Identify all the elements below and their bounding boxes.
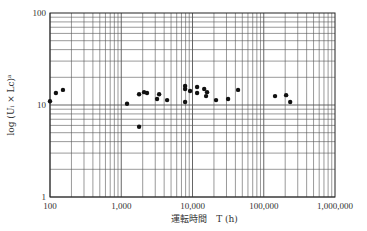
data-point — [195, 85, 199, 89]
data-point — [204, 94, 208, 98]
y-tick-label: 1 — [42, 192, 47, 202]
data-point — [157, 92, 161, 96]
data-point — [137, 125, 141, 129]
data-point — [183, 87, 187, 91]
data-point — [288, 100, 292, 104]
x-tick-label: 100,000 — [249, 201, 279, 211]
data-point — [188, 89, 192, 93]
data-point — [125, 102, 129, 106]
data-point — [155, 97, 159, 101]
grid-lines — [50, 13, 335, 197]
scatter-chart: 1001,00010,000100,0001,000,000 110100 運転… — [0, 0, 367, 231]
data-point — [284, 93, 288, 97]
y-axis-label: log (Uᵢ × Lc)ᵃ — [6, 74, 16, 136]
data-point — [236, 88, 240, 92]
y-tick-label: 100 — [33, 8, 47, 18]
data-point — [145, 91, 149, 95]
data-point — [273, 94, 277, 98]
data-point — [183, 100, 187, 104]
data-point — [226, 97, 230, 101]
data-point — [137, 92, 141, 96]
y-axis-ticks: 110100 — [33, 8, 47, 202]
data-point — [165, 98, 169, 102]
x-axis-label: 運転時間 T (h) — [171, 214, 238, 224]
data-point — [54, 91, 58, 95]
x-tick-label: 1,000 — [111, 201, 132, 211]
x-tick-label: 10,000 — [180, 201, 205, 211]
data-point — [61, 88, 65, 92]
data-point — [195, 91, 199, 95]
data-point — [48, 99, 52, 103]
data-point — [214, 98, 218, 102]
data-points — [48, 84, 293, 129]
data-point — [205, 90, 209, 94]
x-tick-label: 1,000,000 — [317, 201, 354, 211]
x-tick-label: 100 — [43, 201, 57, 211]
y-tick-label: 10 — [37, 100, 47, 110]
x-axis-ticks: 1001,00010,000100,0001,000,000 — [43, 201, 353, 211]
